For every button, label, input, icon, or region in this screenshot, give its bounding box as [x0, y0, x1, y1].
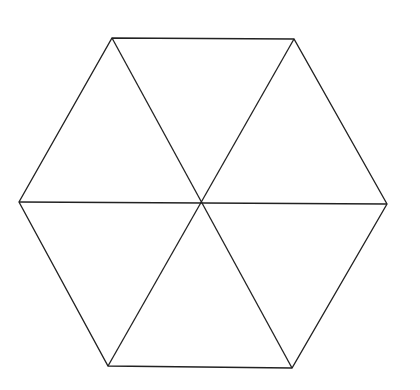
hexagon-diagram [0, 0, 420, 390]
